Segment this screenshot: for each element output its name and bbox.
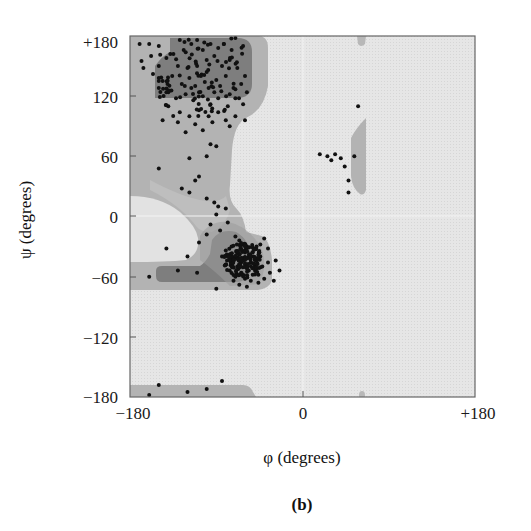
ytick-0: 0: [110, 208, 119, 228]
ytick-neg120: −120: [83, 329, 118, 349]
data-point: [193, 122, 197, 126]
data-point: [157, 64, 161, 68]
data-point: [318, 152, 322, 156]
data-point: [187, 156, 191, 160]
data-point: [329, 158, 333, 162]
data-point: [197, 174, 201, 178]
data-point: [193, 178, 197, 182]
data-point: [184, 92, 188, 96]
data-point: [184, 50, 188, 54]
data-point: [201, 94, 205, 98]
data-point: [178, 73, 182, 77]
data-point: [174, 96, 178, 100]
data-point: [161, 79, 165, 83]
data-point: [237, 283, 241, 287]
data-point: [187, 190, 191, 194]
data-point: [157, 383, 161, 387]
data-point: [258, 243, 262, 247]
data-point: [216, 110, 220, 114]
data-point: [167, 89, 171, 93]
data-point: [224, 249, 228, 253]
data-point: [343, 164, 347, 168]
data-point: [233, 114, 237, 118]
data-point: [165, 79, 169, 83]
ytick-120: 120: [93, 88, 119, 108]
data-point: [178, 110, 182, 114]
data-point: [224, 60, 228, 64]
data-point: [164, 247, 168, 251]
data-point: [207, 63, 211, 67]
data-point: [205, 233, 209, 237]
data-point: [207, 114, 211, 118]
data-point: [214, 144, 218, 148]
data-point: [149, 54, 153, 58]
data-point: [252, 247, 256, 251]
data-point: [241, 275, 245, 279]
data-point: [205, 387, 209, 391]
data-point: [233, 87, 237, 91]
data-point: [193, 97, 197, 101]
data-point: [219, 89, 223, 93]
data-point: [347, 178, 351, 182]
ytick-neg60: −60: [91, 269, 118, 289]
data-point: [214, 213, 218, 217]
data-point: [226, 104, 230, 108]
data-point: [245, 285, 249, 289]
panel-label: (b): [292, 495, 313, 515]
data-point: [170, 74, 174, 78]
xtick-180: +180: [460, 404, 495, 424]
data-point: [256, 253, 260, 257]
data-point: [202, 41, 206, 45]
data-point: [240, 46, 244, 50]
data-point: [225, 268, 229, 272]
data-point: [158, 95, 162, 99]
data-point: [157, 166, 161, 170]
data-point: [235, 66, 239, 70]
data-point: [268, 271, 272, 275]
data-point: [325, 154, 329, 158]
data-point: [222, 255, 226, 259]
data-point: [199, 107, 203, 111]
data-point: [218, 84, 222, 88]
data-point: [230, 56, 234, 60]
data-point: [227, 66, 231, 70]
data-point: [247, 245, 251, 249]
data-point: [188, 56, 192, 60]
data-point: [253, 256, 257, 260]
data-point: [166, 75, 170, 79]
data-point: [249, 254, 253, 258]
data-point: [180, 186, 184, 190]
data-point: [151, 72, 155, 76]
data-point: [243, 244, 247, 248]
data-point: [224, 118, 228, 122]
data-point: [218, 229, 222, 233]
data-point: [339, 156, 343, 160]
data-point: [352, 154, 356, 158]
data-point: [236, 250, 240, 254]
data-point: [243, 118, 247, 122]
data-point: [222, 42, 226, 46]
data-point: [197, 102, 201, 106]
ytick-neg180: −180: [83, 388, 118, 408]
data-point: [232, 279, 236, 283]
data-point: [198, 90, 202, 94]
data-point: [255, 270, 259, 274]
data-point: [245, 270, 249, 274]
data-point: [245, 250, 249, 254]
data-point: [220, 379, 224, 383]
data-point: [191, 92, 195, 96]
data-point: [206, 43, 210, 47]
xtick-0: 0: [299, 404, 308, 424]
data-point: [214, 78, 218, 82]
data-point: [210, 120, 214, 124]
data-point: [176, 120, 180, 124]
data-point: [194, 59, 198, 63]
xtick-neg180: −180: [115, 404, 150, 424]
data-point: [186, 390, 190, 394]
data-point: [223, 264, 227, 268]
data-point: [205, 58, 209, 62]
data-point: [278, 269, 282, 273]
data-point: [164, 103, 168, 107]
allowed-lobe-bottom: [359, 391, 365, 399]
data-point: [206, 97, 210, 101]
